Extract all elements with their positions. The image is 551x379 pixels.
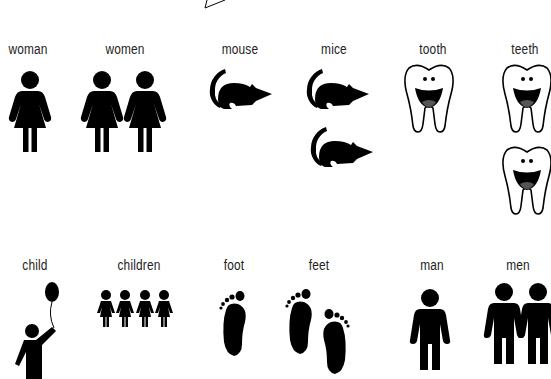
mouse-icon (210, 69, 272, 109)
mice-icon (307, 69, 373, 167)
woman-icon (9, 71, 51, 152)
men-icon (484, 283, 551, 364)
teeth-icon (503, 65, 551, 214)
label-foot: foot (200, 257, 268, 273)
foot-icon (219, 291, 245, 356)
label-tooth: tooth (399, 41, 467, 57)
label-feet: feet (285, 257, 353, 273)
label-child: child (1, 257, 69, 273)
label-man: man (398, 257, 466, 273)
label-woman: woman (0, 41, 62, 57)
feet-icon (285, 289, 349, 374)
child-balloon-icon (15, 282, 59, 379)
tooth-icon (405, 65, 453, 132)
label-mouse: mouse (206, 41, 274, 57)
illustration-canvas (0, 0, 551, 379)
label-women: women (91, 41, 159, 57)
label-mice: mice (300, 41, 368, 57)
children-icon (97, 290, 173, 327)
pencil-fragment-icon (205, 0, 225, 8)
label-teeth: teeth (491, 41, 551, 57)
women-icon (81, 71, 166, 152)
label-men: men (484, 257, 551, 273)
man-icon (410, 289, 450, 370)
label-children: children (105, 257, 173, 273)
